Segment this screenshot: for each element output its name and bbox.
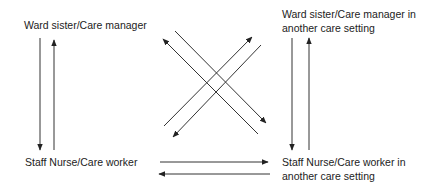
arrows-layer: [0, 0, 432, 192]
communication-diagram: Ward sister/Care manager Ward sister/Car…: [0, 0, 432, 192]
arrow-diag-bl-tr: [164, 37, 252, 126]
arrow-diag-br-tl: [163, 39, 258, 134]
arrow-diag-tl-br: [175, 31, 266, 123]
